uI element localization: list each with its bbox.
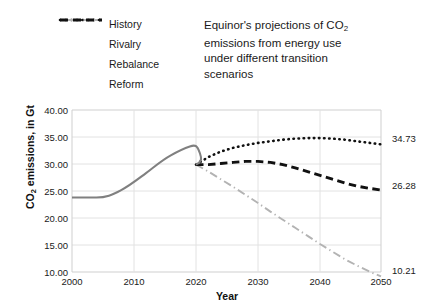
x-tick-2010: 2010 — [109, 276, 159, 287]
x-tick-2000: 2000 — [47, 276, 97, 287]
reform-end-label: 26.28 — [392, 180, 416, 191]
series-line-history — [72, 146, 201, 198]
series-line-rivalry — [196, 138, 381, 165]
x-tick-2020: 2020 — [171, 276, 221, 287]
x-tick-2040: 2040 — [295, 276, 345, 287]
series-line-rebalance — [196, 165, 381, 277]
rivalry-end-label: 34.73 — [392, 133, 416, 144]
x-tick-2050: 2050 — [356, 276, 406, 287]
plot-area — [0, 0, 447, 308]
x-axis-title: Year — [72, 290, 382, 302]
rebalance-end-label: 10.21 — [392, 265, 416, 276]
series-line-reform — [196, 161, 381, 190]
x-tick-2030: 2030 — [233, 276, 283, 287]
chart-root: History Rivalry Rebalance Reform Equinor… — [0, 0, 447, 308]
